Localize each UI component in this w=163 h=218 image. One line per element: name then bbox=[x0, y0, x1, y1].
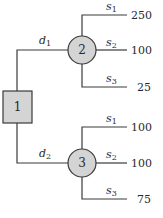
decision-node-label: 1 bbox=[14, 100, 22, 114]
outcome-s3-line bbox=[82, 64, 127, 87]
outcome-s2-label: s2 bbox=[106, 36, 117, 50]
outcome-s3-label: s3 bbox=[106, 72, 117, 86]
chance-node-3: 3 bbox=[68, 149, 96, 177]
branch-d1-label: d1 bbox=[39, 34, 51, 48]
branch-d2: d2 bbox=[17, 123, 68, 163]
chance-node-2: 2 bbox=[68, 36, 96, 64]
branch-d1-line bbox=[17, 50, 68, 91]
outcome-s1-line bbox=[82, 127, 127, 149]
chance-node-label: 2 bbox=[78, 43, 86, 57]
payoff-value: 100 bbox=[131, 44, 152, 57]
outcome-s1-line bbox=[82, 15, 127, 36]
branch-d2-label: d2 bbox=[39, 147, 51, 161]
branch-d1: d1 bbox=[17, 34, 68, 91]
chance-node-label: 3 bbox=[78, 156, 86, 170]
decision-node-1: 1 bbox=[3, 91, 32, 123]
payoff-value: 250 bbox=[131, 9, 152, 22]
outcome-s3-label: s3 bbox=[106, 184, 117, 198]
outcome-s2-label: s2 bbox=[106, 148, 117, 162]
payoff-value: 75 bbox=[137, 193, 151, 206]
payoff-value: 25 bbox=[137, 81, 151, 94]
outcome-s1-label: s1 bbox=[106, 0, 117, 14]
payoff-value: 100 bbox=[131, 157, 152, 170]
payoff-value: 100 bbox=[131, 121, 152, 134]
decision-tree-diagram: d1 d2 s1 s2 s3 250 100 25 s1 s2 s3 100 1… bbox=[0, 0, 163, 218]
outcome-s3-line bbox=[82, 177, 127, 199]
outcome-s1-label: s1 bbox=[106, 112, 117, 126]
